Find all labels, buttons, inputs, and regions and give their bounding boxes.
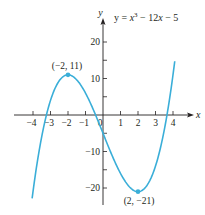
x-tick-label: 4: [171, 118, 176, 128]
x-tick-label: −1: [79, 118, 89, 128]
axes: xy−4−3−2−101234−20−101020: [14, 7, 201, 205]
labels: (−2, 11)(2, −21)y = x3 − 12x − 5: [52, 11, 179, 207]
y-tick-label: −20: [85, 183, 100, 193]
x-tick-label: 2: [136, 118, 141, 128]
x-tick-label: 1: [118, 118, 123, 128]
y-tick-label: 10: [91, 74, 101, 84]
y-tick-label: 20: [91, 37, 101, 47]
x-tick-label: −4: [26, 118, 36, 128]
x-tick-label: 3: [153, 118, 158, 128]
cubic-function-chart: xy−4−3−2−101234−20−101020 (−2, 11)(2, −2…: [0, 0, 205, 215]
point-label: (−2, 11): [52, 61, 82, 72]
y-tick-label: −10: [85, 147, 100, 157]
x-tick-label: −2: [61, 118, 71, 128]
extremum-point: [66, 73, 71, 78]
extremum-point: [136, 189, 141, 194]
y-axis-label: y: [97, 7, 103, 18]
equation-label: y = x3 − 12x − 5: [114, 11, 178, 23]
x-axis-label: x: [195, 109, 201, 120]
point-label: (2, −21): [124, 196, 155, 207]
